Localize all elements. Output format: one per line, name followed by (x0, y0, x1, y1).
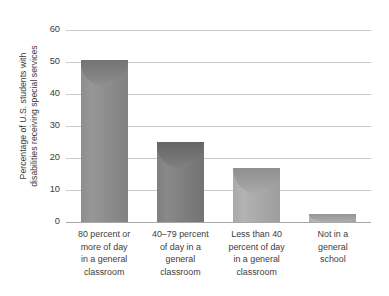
y-axis-tick-label: 0 (30, 217, 60, 226)
bar (233, 168, 280, 222)
gridline (66, 30, 371, 31)
bar (157, 142, 204, 222)
x-axis-category-label-line: of day in a (142, 241, 218, 254)
x-axis-category-label-line: percent of day (219, 241, 295, 254)
x-axis-category-label-line: 80 percent or (66, 228, 142, 241)
x-axis-category-label: Less than 40percent of dayin a generalcl… (219, 228, 295, 279)
y-axis-title: Percentage of U.S. students with disabil… (12, 0, 46, 232)
x-axis-category-label-line: in a general (66, 253, 142, 266)
x-axis-baseline (66, 222, 371, 223)
y-axis-tick-label: 40 (30, 89, 60, 98)
y-axis-tick-label: 60 (30, 25, 60, 34)
x-axis-category-label-line: general (142, 253, 218, 266)
bar (309, 214, 356, 222)
bar-body (81, 60, 128, 222)
x-axis-category-label-line: classroom (142, 266, 218, 279)
bar-chart: Percentage of U.S. students with disabil… (0, 0, 389, 296)
x-axis-category-label-line: classroom (66, 266, 142, 279)
y-axis-tick-label: 50 (30, 57, 60, 66)
x-axis-category-label-line: general (295, 241, 371, 254)
bar-body (157, 142, 204, 222)
bar-body (233, 168, 280, 222)
x-axis-category-label-line: classroom (219, 266, 295, 279)
y-axis-tick-label: 10 (30, 185, 60, 194)
x-axis-category-label: Not in ageneralschool (295, 228, 371, 266)
x-axis-category-label-line: 40–79 percent (142, 228, 218, 241)
y-axis-tick-label: 30 (30, 121, 60, 130)
x-axis-category-label-line: Less than 40 (219, 228, 295, 241)
y-axis-title-line-1: Percentage of U.S. students with (18, 53, 29, 180)
x-axis-category-label-line: in a general (219, 253, 295, 266)
x-axis-category-label-line: Not in a (295, 228, 371, 241)
bar-body (309, 214, 356, 222)
x-axis-labels: 80 percent ormore of dayin a generalclas… (66, 228, 371, 294)
x-axis-category-label: 80 percent ormore of dayin a generalclas… (66, 228, 142, 279)
bar (81, 60, 128, 222)
y-axis-tick-label: 20 (30, 153, 60, 162)
x-axis-category-label-line: more of day (66, 241, 142, 254)
plot-area: 0102030405060 (66, 30, 371, 222)
x-axis-category-label: 40–79 percentof day in ageneralclassroom (142, 228, 218, 279)
x-axis-category-label-line: school (295, 253, 371, 266)
